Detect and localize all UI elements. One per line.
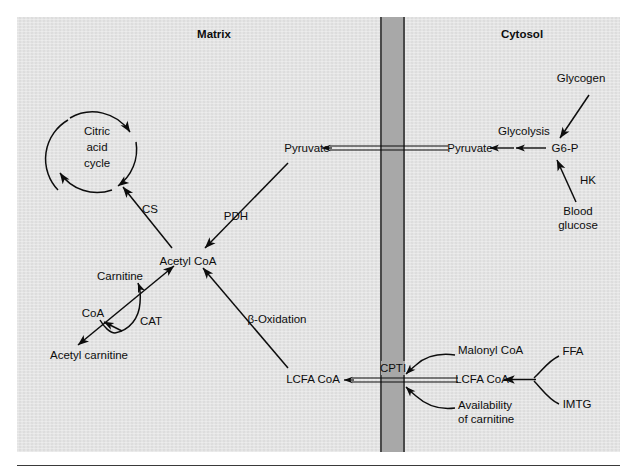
node-ffa: FFA — [562, 345, 583, 358]
figure-bottom-rule — [17, 465, 620, 466]
node-imtg: IMTG — [563, 398, 592, 411]
node-availability-of-carnitine-line2: of carnitine — [458, 413, 514, 426]
node-blood-glucose-line2: glucose — [558, 219, 598, 232]
node-coa: CoA — [82, 307, 104, 320]
node-citric-acid-cycle-line3: cycle — [84, 157, 110, 170]
node-citric-acid-cycle-line2: acid — [86, 141, 107, 154]
edge-pyruvate-to-acetylcoa — [205, 163, 288, 248]
edge-acetylcoa-to-citric-cycle — [123, 187, 172, 248]
enzyme-label-cat: CAT — [140, 315, 162, 328]
node-citric-acid-cycle-line1: Citric — [84, 125, 110, 138]
membrane-transporter-label-cpti: CPTI — [380, 362, 406, 375]
edge-malonylcoa-to-cpti — [406, 354, 455, 374]
node-lcfa-coa-matrix: LCFA CoA — [286, 373, 340, 386]
enzyme-label-cs: CS — [142, 203, 158, 216]
enzyme-label-hk: HK — [580, 174, 596, 187]
node-blood-glucose-line1: Blood — [563, 205, 592, 218]
node-availability-of-carnitine-line1: Availability — [458, 399, 512, 412]
node-pyruvate-matrix: Pyruvate — [284, 142, 329, 155]
node-lcfa-coa-cytosol: LCFA CoA — [455, 373, 509, 386]
edge-bloodglucose-to-g6p — [557, 160, 576, 202]
node-g6p: G6-P — [552, 142, 579, 155]
edge-pyruvate-transport — [322, 146, 448, 150]
figure-page: Matrix Cytosol Citric acid cycle Acetyl … — [0, 0, 636, 472]
edge-lcfacoa-transport — [344, 378, 458, 382]
cytosol-compartment-label: Cytosol — [501, 28, 543, 41]
node-pyruvate-cytosol: Pyruvate — [447, 142, 492, 155]
node-acetyl-carnitine: Acetyl carnitine — [50, 349, 128, 362]
enzyme-label-pdh: PDH — [224, 210, 248, 223]
node-carnitine: Carnitine — [97, 270, 143, 283]
node-malonyl-coa: Malonyl CoA — [458, 344, 523, 357]
edge-glycogen-to-g6p — [560, 95, 589, 138]
enzyme-label-beta-oxidation: β-Oxidation — [247, 313, 306, 326]
node-glycogen: Glycogen — [557, 72, 606, 85]
enzyme-label-glycolysis: Glycolysis — [498, 125, 550, 138]
edge-ffa-imtg-to-lcfacoa — [504, 356, 559, 404]
edge-carnitine-availability-to-cpti — [406, 387, 455, 408]
node-acetyl-coa: Acetyl CoA — [160, 255, 217, 268]
edge-coa-to-carnitine — [115, 283, 140, 333]
matrix-compartment-label: Matrix — [197, 28, 231, 41]
pathway-vector-layer — [0, 0, 636, 472]
